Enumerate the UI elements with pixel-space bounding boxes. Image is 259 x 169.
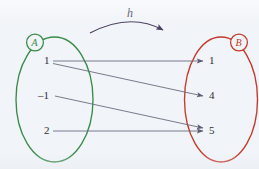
function-label-h: h xyxy=(127,7,133,19)
arrow-1-to-4 xyxy=(53,64,203,97)
codomain-element-5: 5 xyxy=(209,125,215,136)
mapping-diagram: A B h 1 –1 2 1 4 5 xyxy=(0,0,259,169)
domain-element-1: 1 xyxy=(44,55,50,66)
set-b-ellipse xyxy=(185,37,258,162)
domain-element-2: 2 xyxy=(44,125,50,136)
set-b-label: B xyxy=(236,38,242,48)
domain-element-neg1: –1 xyxy=(38,90,49,101)
set-a-ellipse xyxy=(16,37,93,162)
set-a-label: A xyxy=(32,38,38,48)
mapping-arc xyxy=(90,22,163,33)
codomain-element-4: 4 xyxy=(209,90,215,101)
codomain-element-1: 1 xyxy=(209,55,215,66)
diagram-canvas xyxy=(0,0,259,169)
arrow-neg1-to-5 xyxy=(55,96,203,128)
